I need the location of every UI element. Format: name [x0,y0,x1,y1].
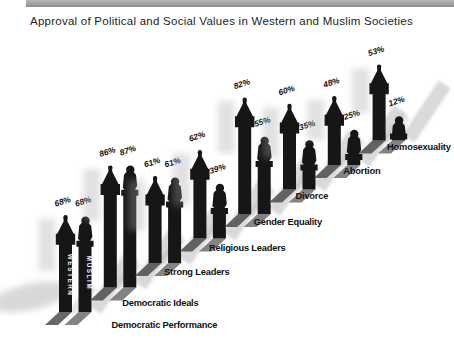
steeple-finial [198,150,202,154]
page: Approval of Political and Social Values … [0,0,454,344]
statue-head [126,166,134,174]
statue-head [395,116,403,124]
value-label-western: 53% [367,43,386,58]
shadow [218,101,235,153]
statue-head [216,184,224,192]
value-label-western: 62% [187,129,206,144]
series-label-muslim: MUSLIM [86,256,93,290]
approval-values-bar-chart: 68%68%Democratic PerformanceWESTERNMUSLI… [0,0,454,344]
shadow [39,219,56,271]
value-label-muslim: 12% [387,94,406,109]
steeple-finial [332,96,336,100]
category-label-democratic-ideals: Democratic Ideals [122,298,198,308]
bar-muslim-divorce [300,146,317,190]
shadow [173,154,190,206]
shadow [403,81,451,143]
statue-head [350,130,358,138]
value-label-muslim: 39% [208,161,227,176]
steeple-finial [377,65,381,69]
category-label-abortion: Abortion [343,166,381,176]
value-label-western: 48% [321,75,341,90]
value-label-western: 86% [98,144,117,159]
steeple-finial [108,165,112,169]
value-label-western: 60% [277,83,296,98]
shadow [128,180,145,231]
steeple-finial [63,215,67,219]
category-label-democratic-performance: Democratic Performance [112,320,218,330]
value-label-western: 61% [143,155,162,170]
category-label-religious-leaders: Religious Leaders [209,243,286,253]
bar-muslim-religious-leaders [211,189,228,238]
shadow [83,169,100,221]
steeple-finial [243,98,247,102]
value-label-muslim: 87% [118,143,137,158]
shadow [263,108,280,158]
value-label-western: 68% [53,194,72,209]
category-label-gender-equality: Gender Equality [254,217,323,227]
bar-pair-homosexuality: 53%12%Homosexuality [352,43,452,153]
chart-canvas: 68%68%Democratic PerformanceWESTERNMUSLI… [0,0,454,344]
steeple-finial [153,176,157,180]
statue-head [305,140,313,148]
steeple-finial [287,104,291,108]
category-label-divorce: Divorce [296,191,329,201]
shadow [352,68,369,113]
shadow [307,100,324,140]
value-label-western: 82% [232,76,251,91]
category-label-strong-leaders: Strong Leaders [164,267,229,277]
series-label-western: WESTERN [67,254,74,297]
category-label-homosexuality: Homosexuality [387,142,452,152]
